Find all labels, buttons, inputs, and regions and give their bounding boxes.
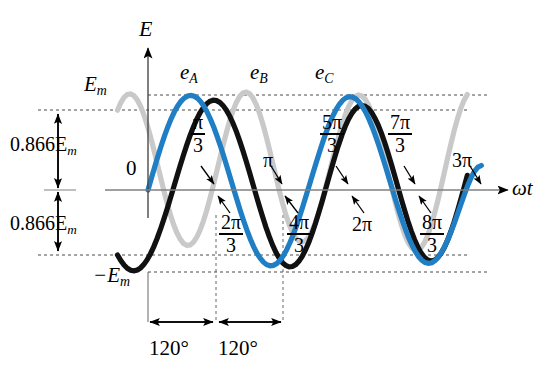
tick-above-pi-over-3: π 3 [191,112,205,155]
peak-positive-label: Em [84,74,107,95]
rms-lower-label: 0.866Em [10,213,77,233]
fraction: 2π 3 [219,212,243,255]
tick-above-5pi-over-3: 5π 3 [320,112,344,155]
tick-below-2pi-over-3: 2π 3 [219,212,243,255]
fraction-numerator: 8π [420,212,444,232]
figure-canvas: E ωt Em −Em 0.866Em 0.866Em 0 eA eB eC π… [0,0,557,381]
fraction-denominator: 3 [191,135,205,155]
fraction-numerator: 2π [219,212,243,232]
dimension-label-left: 120° [149,338,189,359]
tick-above-pi: π [263,150,273,170]
curve-label-eb-name: e [250,60,259,84]
origin-label: 0 [126,158,137,179]
fraction: 4π 3 [287,212,311,255]
peak-positive-text: E [84,72,97,96]
rms-lower-value: 0.866E [10,212,67,234]
tick-above-3pi: 3π [452,150,472,170]
curve-label-eb: eB [250,62,268,83]
curve-label-ea-sub: A [189,71,197,86]
y-axis-label: E [139,18,152,40]
fraction: π 3 [191,112,205,155]
tick-below-2pi: 2π [352,214,372,234]
curve-label-ec: eC [315,62,334,83]
curve-label-ec-sub: C [324,71,333,86]
fraction: 8π 3 [420,212,444,255]
peak-negative-label: −Em [93,265,130,286]
rms-upper-value: 0.866E [10,133,67,155]
waveform-plot [0,0,557,381]
tick-above-7pi-over-3: 7π 3 [388,112,412,155]
rms-upper-subscript: m [67,143,77,158]
tick-below-8pi-over-3: 8π 3 [420,212,444,255]
curve-label-ea: eA [180,62,198,83]
dimension-label-right: 120° [218,338,258,359]
curve-label-ec-name: e [315,60,324,84]
tick-below-4pi-over-3: 4π 3 [287,212,311,255]
fraction-numerator: 7π [388,112,412,132]
peak-negative-text: −E [93,263,120,287]
rms-upper-label: 0.866Em [10,134,77,154]
peak-negative-subscript: m [120,274,130,289]
fraction-denominator: 3 [388,135,412,155]
fraction-denominator: 3 [320,135,344,155]
curve-label-ea-name: e [180,60,189,84]
fraction-numerator: π [191,112,205,132]
fraction-denominator: 3 [287,235,311,255]
fraction-numerator: 4π [287,212,311,232]
fraction: 5π 3 [320,112,344,155]
x-axis-label: ωt [512,178,533,199]
curve-label-eb-sub: B [259,71,267,86]
peak-positive-subscript: m [97,83,107,98]
fraction-denominator: 3 [420,235,444,255]
dimension-guides [148,215,283,322]
fraction-numerator: 5π [320,112,344,132]
rms-lower-subscript: m [67,222,77,237]
fraction: 7π 3 [388,112,412,155]
fraction-denominator: 3 [219,235,243,255]
